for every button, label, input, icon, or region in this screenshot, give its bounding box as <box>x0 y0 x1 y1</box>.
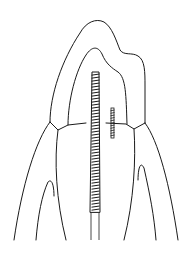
bone-right <box>138 165 156 240</box>
gum-line-left <box>14 122 50 240</box>
main-file <box>90 72 100 212</box>
root-wall-left <box>56 130 66 240</box>
root-wall-right <box>124 129 135 240</box>
bone-left <box>36 181 54 240</box>
gum-line-right <box>145 123 178 240</box>
tooth-diagram <box>0 0 193 253</box>
tooth-diagram-svg <box>0 0 193 253</box>
small-screw <box>111 108 115 138</box>
